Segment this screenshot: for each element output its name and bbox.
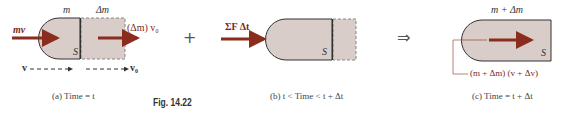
- panel-a-mass-label: m: [63, 4, 70, 15]
- panel-c-mass-label: m + Δm: [491, 4, 523, 15]
- panel-c-system-label: S: [541, 47, 546, 58]
- panel-b-caption: (b) t < Time < t + Δt: [270, 91, 343, 101]
- panel-b-body: [266, 19, 356, 60]
- figure-number: Fig. 14.22: [153, 97, 192, 108]
- impulse-label: ΣF Δt: [225, 21, 249, 32]
- momentum-out-label: (Δm) v₀: [127, 22, 159, 33]
- panel-b-system-label: S: [322, 46, 327, 57]
- momentum-in-label: mv: [13, 24, 25, 35]
- panel-c-caption: (c) Time = t + Δt: [472, 91, 533, 101]
- panel-a-caption: (a) Time = t: [52, 91, 95, 101]
- plus-operator: +: [183, 28, 196, 47]
- panel-c-momentum-label: (m + Δm) (v + Δv): [470, 68, 538, 78]
- panel-a-delta-mass-label: Δm: [96, 4, 109, 15]
- velocity-label: v: [22, 62, 27, 73]
- panel-a-system-label: S: [73, 46, 78, 57]
- velocity0-label: v₀: [130, 62, 138, 73]
- implies-operator: ⇒: [397, 28, 410, 47]
